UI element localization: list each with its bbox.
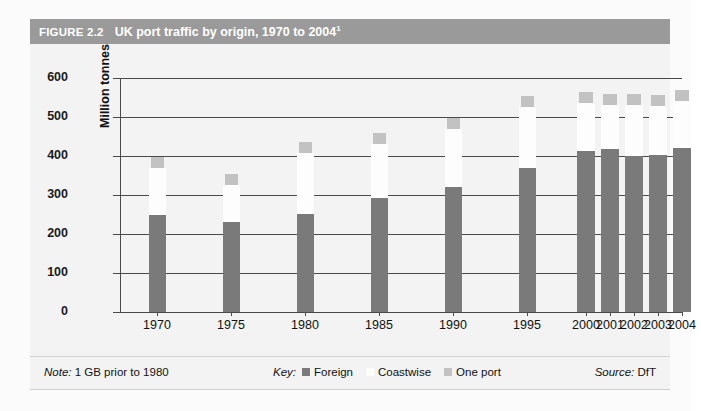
y-tick-label-0: 0 [28, 305, 68, 318]
y-tick-0 [113, 312, 120, 313]
gridline-400 [120, 156, 682, 157]
bar-segment-one-port [675, 90, 689, 101]
bar-segment-one-port [579, 92, 593, 103]
legend-swatch-icon [366, 368, 374, 376]
gridline-200 [120, 234, 682, 235]
source-text: DfT [637, 366, 656, 378]
bar-segment-coastwise [577, 103, 595, 152]
bar-segment-foreign [445, 187, 462, 312]
x-tick-2004 [682, 312, 683, 316]
figure-footer: Note: 1 GB prior to 1980 Key: ForeignCoa… [30, 357, 670, 389]
y-tick-600 [113, 78, 120, 79]
y-tick-100 [113, 273, 120, 274]
bar-segment-foreign [297, 214, 314, 312]
bar-segment-coastwise [625, 105, 643, 156]
legend: Key: ForeignCoastwiseOne port [273, 366, 514, 378]
bar-group[interactable] [149, 78, 166, 312]
bar-segment-one-port [225, 174, 238, 185]
gridline-600 [120, 78, 682, 79]
legend-item-label: Coastwise [378, 366, 431, 378]
gridline-0 [120, 312, 682, 313]
bar-segment-coastwise [673, 101, 691, 148]
bar-segment-foreign [519, 168, 536, 312]
legend-item-label: Foreign [314, 366, 353, 378]
note-text: 1 GB prior to 1980 [75, 366, 169, 378]
bar-group[interactable] [297, 78, 314, 312]
bar-segment-foreign [223, 222, 240, 312]
x-tick-1970 [157, 312, 158, 316]
x-tick-1995 [527, 312, 528, 316]
y-tick-label-500: 500 [28, 110, 68, 123]
legend-item-label: One port [456, 366, 501, 378]
figure-number: FIGURE 2.2 [39, 26, 104, 38]
bar-group[interactable] [625, 78, 643, 312]
bar-segment-coastwise [649, 106, 667, 155]
bar-group[interactable] [223, 78, 240, 312]
x-tick-2003 [658, 312, 659, 316]
x-axis-label-1975: 1975 [209, 318, 253, 332]
bar-segment-foreign [625, 156, 643, 312]
x-tick-2002 [634, 312, 635, 316]
bar-group[interactable] [673, 78, 691, 312]
bar-segment-one-port [373, 133, 386, 144]
bar-segment-foreign [577, 151, 595, 312]
y-tick-label-600: 600 [28, 71, 68, 84]
note: Note: 1 GB prior to 1980 [44, 366, 169, 378]
bar-group[interactable] [577, 78, 595, 312]
bar-group[interactable] [445, 78, 462, 312]
note-label: Note: [44, 366, 72, 378]
gridline-500 [120, 117, 682, 118]
bar-segment-coastwise [371, 144, 388, 199]
bar-segment-coastwise [297, 153, 314, 213]
bar-segment-coastwise [149, 168, 166, 214]
bar-segment-coastwise [519, 107, 536, 167]
bar-segment-one-port [603, 94, 617, 105]
plot-area: Million tonnes 0100200300400500600 19701… [120, 78, 682, 312]
y-tick-label-300: 300 [28, 188, 68, 201]
bar-segment-foreign [673, 148, 691, 312]
y-tick-label-400: 400 [28, 149, 68, 162]
source: Source: DfT [595, 366, 656, 378]
bar-segment-one-port [151, 157, 164, 168]
legend-item-one-port: One port [444, 366, 501, 378]
x-tick-1975 [231, 312, 232, 316]
x-tick-1980 [305, 312, 306, 316]
bar-segment-one-port [627, 94, 641, 105]
bar-segment-foreign [649, 155, 667, 312]
figure-title-superscript: 1 [336, 24, 340, 33]
legend-swatch-icon [302, 368, 310, 376]
y-tick-400 [113, 156, 120, 157]
y-tick-200 [113, 234, 120, 235]
bar-group[interactable] [519, 78, 536, 312]
bar-segment-coastwise [223, 185, 240, 221]
bar-segment-foreign [149, 215, 166, 313]
y-tick-label-100: 100 [28, 266, 68, 279]
x-tick-1990 [453, 312, 454, 316]
figure-header: FIGURE 2.2 UK port traffic by origin, 19… [30, 19, 670, 44]
bar-segment-one-port [447, 118, 460, 129]
legend-swatch-icon [444, 368, 452, 376]
x-tick-2000 [586, 312, 587, 316]
x-axis-label-1985: 1985 [357, 318, 401, 332]
figure-title-text: UK port traffic by origin, 1970 to 2004 [115, 25, 337, 39]
legend-item-foreign: Foreign [302, 366, 353, 378]
bar-group[interactable] [649, 78, 667, 312]
bar-segment-one-port [299, 142, 312, 153]
y-tick-500 [113, 117, 120, 118]
x-axis-label-1995: 1995 [505, 318, 549, 332]
legend-item-coastwise: Coastwise [366, 366, 431, 378]
x-axis-label-2004: 2004 [660, 318, 701, 332]
chart-panel: Million tonnes 0100200300400500600 19701… [30, 44, 670, 356]
x-axis-label-1970: 1970 [135, 318, 179, 332]
x-axis-label-1990: 1990 [431, 318, 475, 332]
source-label: Source: [595, 366, 635, 378]
bar-group[interactable] [371, 78, 388, 312]
bar-segment-one-port [521, 96, 534, 107]
bar-segment-foreign [371, 198, 388, 312]
legend-label: Key: [273, 366, 296, 378]
bar-segment-coastwise [601, 105, 619, 150]
bar-group[interactable] [601, 78, 619, 312]
x-tick-2001 [610, 312, 611, 316]
bar-segment-foreign [601, 149, 619, 312]
